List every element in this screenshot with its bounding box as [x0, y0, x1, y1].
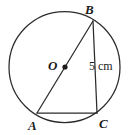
segment-measure-label: 5 cm — [89, 60, 113, 72]
center-point-dot — [62, 64, 67, 69]
vertex-label-c: C — [99, 117, 108, 130]
vertex-label-a: A — [28, 119, 37, 132]
geometry-figure: B O A C 5 cm — [0, 0, 128, 135]
vertex-label-o: O — [48, 59, 57, 72]
vertex-label-b: B — [85, 3, 94, 16]
